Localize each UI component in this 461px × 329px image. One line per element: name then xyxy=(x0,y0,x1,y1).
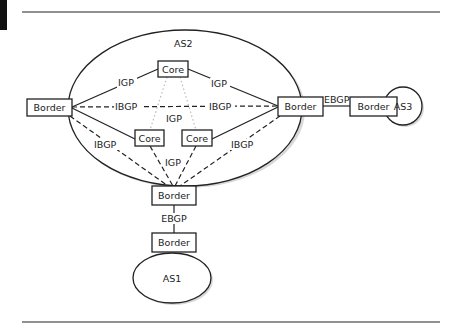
as1-label: AS1 xyxy=(163,273,182,284)
edge-label-igp-right: IGP xyxy=(211,78,227,89)
edge-label-ibgp-1: IBGP xyxy=(115,101,138,112)
chapter-marker xyxy=(0,0,7,30)
node-as2-border-left: Border xyxy=(27,99,72,116)
node-as3-border: Border xyxy=(350,97,397,116)
node-as2-border-right: Border xyxy=(278,97,323,116)
as2-label: AS2 xyxy=(174,38,193,49)
svg-text:Border: Border xyxy=(34,102,66,113)
network-diagram: AS2 IGP IGP IGP IBGP IBGP IBGP IBGP IGP … xyxy=(0,0,461,329)
as3-label: AS3 xyxy=(394,101,413,112)
edge-label-igp-center: IGP xyxy=(166,113,182,124)
node-as2-core-mid-left: Core xyxy=(135,130,164,146)
svg-text:Core: Core xyxy=(139,133,161,144)
edge-label-ebgp-as1: EBGP xyxy=(161,213,187,224)
edge-label-ibgp-right-bottom: IBGP xyxy=(231,139,254,150)
svg-text:Border: Border xyxy=(285,101,317,112)
svg-text:Border: Border xyxy=(158,237,190,248)
edge-label-igp-left: IGP xyxy=(118,77,134,88)
node-as2-core-mid-right: Core xyxy=(182,130,212,146)
svg-text:Border: Border xyxy=(158,190,190,201)
svg-text:Border: Border xyxy=(358,101,390,112)
node-as2-border-bottom: Border xyxy=(152,186,196,205)
node-as2-core-top: Core xyxy=(158,61,188,77)
as2-ellipse xyxy=(68,30,302,186)
svg-text:Core: Core xyxy=(186,133,208,144)
node-as1-border: Border xyxy=(152,233,196,252)
edge-label-ibgp-2: IBGP xyxy=(209,101,232,112)
edge-label-igp-bottom: IGP xyxy=(165,157,181,168)
svg-text:Core: Core xyxy=(162,64,184,75)
edge-label-ibgp-left-bottom: IBGP xyxy=(94,139,117,150)
edge-label-ebgp-as3: EBGP xyxy=(324,94,350,105)
